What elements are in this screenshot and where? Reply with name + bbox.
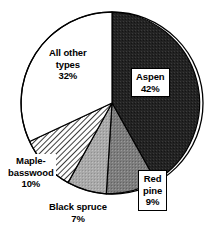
pie-label-black-spruce: Black spruce 7% <box>47 200 109 225</box>
pie-chart-graphic <box>0 0 218 232</box>
pie-label-all-other-types: All other types 32% <box>49 47 87 82</box>
pie-label-red-pine: Red pine 9% <box>138 170 167 211</box>
pie-label-maple-basswood: Maple- basswood 10% <box>6 154 56 191</box>
pie-chart: Aspen 42% Red pine 9% Black spruce 7% Ma… <box>0 0 218 232</box>
pie-label-aspen: Aspen 42% <box>131 68 170 97</box>
